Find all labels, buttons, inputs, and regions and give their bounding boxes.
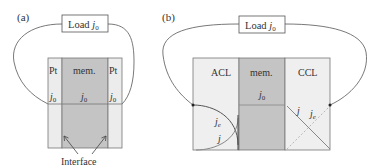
panel-a-label: (a): [17, 11, 30, 24]
panel-b-label: (b): [162, 11, 175, 24]
panel-b-mem-label: mem.: [250, 67, 273, 78]
panel-a-interface-label: Interface: [61, 156, 97, 167]
panel-a-mem-label: mem.: [73, 65, 96, 76]
panel-a-pt-right-label: Pt: [109, 65, 118, 76]
panel-b-acl-label: ACL: [211, 67, 231, 78]
fuel-cell-current-diagram: (a) Load j0 Pt mem. Pt j0 j0 j0 Interfac…: [0, 0, 378, 168]
panel-a: (a) Load j0 Pt mem. Pt j0 j0 j0 Interfac…: [13, 11, 134, 167]
panel-a-pt-left-label: Pt: [49, 65, 58, 76]
panel-b-contact-right: [329, 104, 332, 107]
panel-b-contact-left: [192, 104, 195, 107]
panel-b: (b) Load j0 ACL mem. CCL j0 je j j je: [162, 11, 367, 150]
panel-b-ccl-label: CCL: [298, 67, 317, 78]
